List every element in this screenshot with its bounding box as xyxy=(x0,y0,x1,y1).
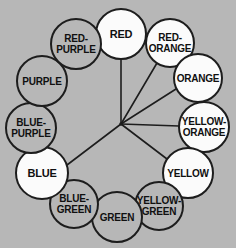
spoke-yellow-orange xyxy=(121,124,179,126)
node-label-line: RED- xyxy=(64,33,88,44)
node-label-blue: BLUE xyxy=(27,167,56,179)
color-node-blue[interactable]: BLUE xyxy=(16,147,68,199)
node-label-green: GREEN xyxy=(100,212,135,223)
color-node-blue-purple[interactable]: BLUE-PURPLE xyxy=(6,103,56,153)
spoke-orange xyxy=(121,89,176,124)
node-label-line: GREEN xyxy=(100,212,135,223)
node-label-line: RED- xyxy=(158,32,182,43)
node-label-line: YELLOW- xyxy=(182,116,227,127)
node-label-yellow: YELLOW xyxy=(167,168,209,179)
color-node-yellow-orange[interactable]: YELLOW-ORANGE xyxy=(179,102,229,152)
wheel-hub xyxy=(119,122,123,126)
node-label-line: PURPLE xyxy=(56,44,96,55)
color-node-green[interactable]: GREEN xyxy=(92,192,142,242)
color-node-orange[interactable]: ORANGE xyxy=(174,54,222,102)
spoke-yellow xyxy=(121,124,167,159)
color-wheel-figure: REDRED-ORANGEORANGEYELLOW-ORANGEYELLOWYE… xyxy=(0,0,236,248)
color-node-red-purple[interactable]: RED-PURPLE xyxy=(51,19,101,69)
node-label-blue-green: BLUE-GREEN xyxy=(57,193,92,216)
node-label-line: ORANGE xyxy=(177,73,220,84)
node-label-line: BLUE- xyxy=(59,193,89,204)
node-label-line: YELLOW xyxy=(167,168,209,179)
color-wheel-canvas: REDRED-ORANGEORANGEYELLOW-ORANGEYELLOWYE… xyxy=(0,0,236,248)
node-label-line: BLUE xyxy=(27,167,56,179)
node-label-line: GREEN xyxy=(142,206,177,217)
node-label-line: ORANGE xyxy=(149,43,192,54)
color-node-red[interactable]: RED xyxy=(96,9,146,59)
node-label-line: YELLOW- xyxy=(137,195,182,206)
node-label-line: BLUE- xyxy=(16,117,46,128)
node-label-red: RED xyxy=(110,28,133,40)
node-label-purple: PURPLE xyxy=(22,76,62,87)
node-label-blue-purple: BLUE-PURPLE xyxy=(11,117,51,140)
hub-center-dot xyxy=(119,122,123,126)
node-label-line: GREEN xyxy=(57,204,92,215)
node-label-line: ORANGE xyxy=(183,127,226,138)
spokes-group xyxy=(67,59,179,165)
node-label-line: PURPLE xyxy=(22,76,62,87)
node-label-line: PURPLE xyxy=(11,128,51,139)
node-label-yellow-green: YELLOW-GREEN xyxy=(137,195,182,218)
color-nodes-group: REDRED-ORANGEORANGEYELLOW-ORANGEYELLOWYE… xyxy=(6,9,229,242)
node-label-orange: ORANGE xyxy=(177,73,220,84)
node-label-line: RED xyxy=(110,28,133,40)
node-label-yellow-orange: YELLOW-ORANGE xyxy=(182,116,227,139)
spoke-blue xyxy=(67,124,121,165)
spoke-red-orange xyxy=(121,63,157,124)
